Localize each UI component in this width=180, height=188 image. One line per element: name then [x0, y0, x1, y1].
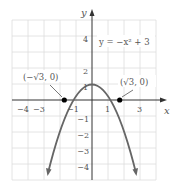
x-tick: −3	[33, 105, 45, 114]
x-tick: −1	[67, 105, 79, 114]
x-axis-label: x	[164, 105, 170, 116]
y-axis-arrow-icon	[90, 9, 95, 16]
parabola-graph: y x y = −x² + 3 (−√3, 0) (√3, 0) −4 −3 −…	[0, 0, 180, 188]
y-tick: −3	[77, 147, 89, 156]
x-tick: 1	[105, 105, 110, 114]
y-tick-labels: 4 2 1 −1 −2 −3 −4	[77, 35, 89, 172]
right-intercept-label: (√3, 0)	[120, 77, 148, 87]
x-tick: −4	[17, 105, 29, 114]
equation-label: y = −x² + 3	[98, 37, 150, 47]
right-arrow-icon	[133, 168, 139, 176]
x-tick: 3	[137, 105, 142, 114]
y-tick: −2	[77, 131, 89, 140]
x-axis-arrow-icon	[160, 98, 167, 103]
x-tick-labels: −4 −3 −1 1 3	[17, 105, 142, 114]
left-arrow-icon	[46, 168, 52, 176]
y-tick: 2	[83, 67, 88, 76]
y-tick: −4	[77, 163, 89, 172]
left-intercept-point	[62, 97, 67, 102]
right-intercept-point	[117, 97, 122, 102]
y-tick: 4	[83, 35, 88, 44]
left-intercept-label: (−√3, 0)	[23, 72, 58, 82]
y-tick: −1	[77, 115, 89, 124]
y-tick: 1	[83, 83, 88, 92]
y-axis-label: y	[80, 7, 87, 18]
